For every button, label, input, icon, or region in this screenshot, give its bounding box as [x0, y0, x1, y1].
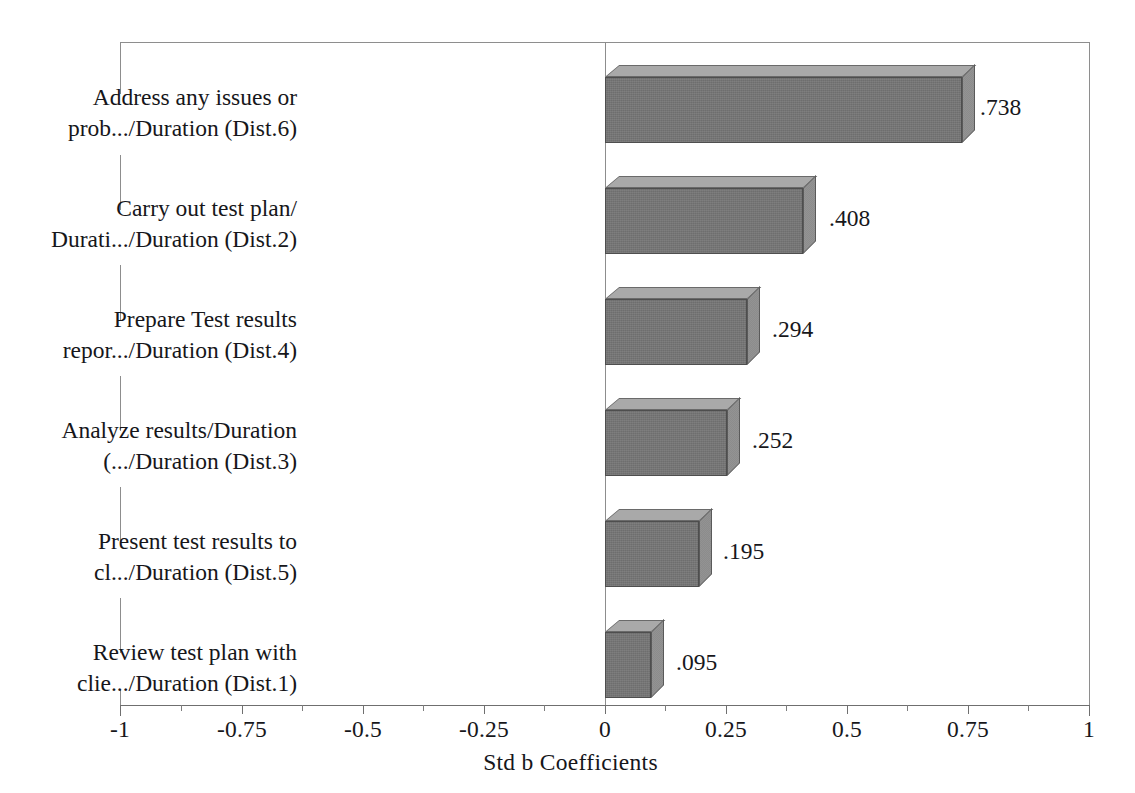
x-tick-minor	[181, 705, 182, 711]
x-tick-label: 0.5	[832, 716, 862, 743]
category-label-dist2: Carry out test plan/ Durati.../Duration …	[0, 193, 297, 254]
bar-dist6[interactable]	[605, 65, 962, 131]
category-label-line2: Durati.../Duration (Dist.2)	[0, 224, 297, 255]
x-tick-minor	[302, 705, 303, 711]
category-label-line2: prob.../Duration (Dist.6)	[0, 113, 297, 144]
bar-dist3[interactable]	[605, 398, 727, 464]
bar-top-face	[605, 509, 713, 521]
category-label-line2: (.../Duration (Dist.3)	[0, 446, 297, 477]
x-tick-major	[968, 705, 969, 714]
x-tick-major	[484, 705, 485, 714]
x-tick-minor	[665, 705, 666, 711]
x-tick-label: 0	[599, 716, 611, 743]
category-label-dist5: Present test results to cl.../Duration (…	[0, 526, 297, 587]
x-tick-major	[1089, 705, 1090, 716]
bar-side-face	[962, 64, 975, 143]
bar-front-face	[605, 632, 651, 698]
value-label-dist2: .408	[829, 205, 870, 232]
x-tick-minor	[786, 705, 787, 711]
bar-top-face	[605, 398, 741, 410]
bar-front-face	[605, 299, 747, 365]
x-tick-major	[363, 705, 364, 714]
category-label-dist1: Review test plan with clie.../Duration (…	[0, 637, 297, 698]
category-label-dist3: Analyze results/Duration (.../Duration (…	[0, 415, 297, 476]
chart-canvas: .738 .408 .294 .252 .195 .095 Address an…	[0, 0, 1135, 793]
x-tick-label: 0.25	[705, 716, 747, 743]
category-label-line1: Prepare Test results	[0, 304, 297, 335]
bar-side-face	[651, 619, 664, 698]
category-label-line1: Carry out test plan/	[0, 193, 297, 224]
bar-front-face	[605, 188, 803, 254]
bar-dist2[interactable]	[605, 176, 803, 242]
x-tick-label: 1	[1083, 716, 1095, 743]
bar-side-face	[699, 508, 712, 587]
value-label-dist1: .095	[676, 649, 717, 676]
x-axis-title: Std b Coefficients	[0, 749, 1135, 776]
bar-top-face	[605, 65, 976, 77]
x-tick-label: -1	[110, 716, 130, 743]
category-label-line2: repor.../Duration (Dist.4)	[0, 335, 297, 366]
x-tick-label: 0.75	[947, 716, 989, 743]
plot-frame-right	[1089, 42, 1090, 706]
x-tick-label: -0.75	[217, 716, 267, 743]
x-tick-major	[847, 705, 848, 714]
x-tick-major	[605, 705, 606, 714]
bar-dist5[interactable]	[605, 509, 699, 575]
value-label-dist5: .195	[723, 538, 764, 565]
value-label-dist3: .252	[752, 427, 793, 454]
x-tick-label: -0.25	[459, 716, 509, 743]
category-label-dist4: Prepare Test results repor.../Duration (…	[0, 304, 297, 365]
bar-side-face	[727, 397, 740, 476]
x-tick-major	[242, 705, 243, 714]
category-label-line2: clie.../Duration (Dist.1)	[0, 668, 297, 699]
x-axis-title-text: Std b Coefficients	[483, 749, 658, 775]
category-label-line1: Analyze results/Duration	[0, 415, 297, 446]
bar-front-face	[605, 77, 962, 143]
x-tick-label: -0.5	[344, 716, 382, 743]
category-label-line1: Present test results to	[0, 526, 297, 557]
category-label-line1: Address any issues or	[0, 82, 297, 113]
value-label-dist6: .738	[980, 94, 1021, 121]
bar-front-face	[605, 521, 699, 587]
bar-side-face	[803, 175, 816, 254]
bar-front-face	[605, 410, 727, 476]
bar-top-face	[605, 176, 817, 188]
bar-top-face	[605, 287, 761, 299]
bar-dist1[interactable]	[605, 620, 651, 686]
x-tick-minor	[544, 705, 545, 711]
category-label-dist6: Address any issues or prob.../Duration (…	[0, 82, 297, 143]
category-label-line1: Review test plan with	[0, 637, 297, 668]
x-tick-minor	[907, 705, 908, 711]
x-tick-minor	[1028, 705, 1029, 711]
category-label-line2: cl.../Duration (Dist.5)	[0, 557, 297, 588]
bar-side-face	[747, 286, 760, 365]
value-label-dist4: .294	[772, 316, 813, 343]
bar-dist4[interactable]	[605, 287, 747, 353]
x-tick-major	[120, 705, 121, 716]
x-tick-major	[726, 705, 727, 714]
x-tick-minor	[423, 705, 424, 711]
